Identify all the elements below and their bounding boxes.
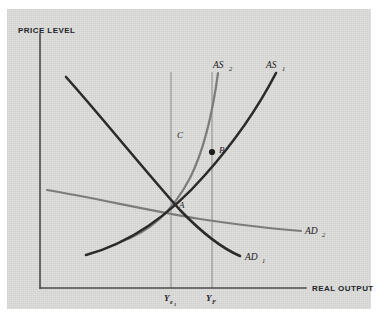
- chart-canvas: AS 2 AS 1 AD 2 AD 1 C B A PRICE LEVEL RE…: [0, 0, 386, 325]
- tick-label-ye1: Y e 1: [164, 293, 176, 307]
- curve-label-as2-base: AS: [212, 60, 224, 70]
- y-axis-label: PRICE LEVEL: [18, 26, 75, 35]
- tick-ye1-subsub: 1: [174, 302, 176, 307]
- curve-label-ad2-sub: 2: [322, 231, 326, 238]
- tick-label-yf: Y F: [206, 293, 216, 305]
- curve-label-as1-sub: 1: [282, 65, 285, 72]
- curve-label-ad2-base: AD: [304, 226, 318, 236]
- curve-label-ad1: AD 1: [244, 252, 265, 264]
- curve-label-as1: AS 1: [265, 60, 285, 72]
- x-axis-label: REAL OUTPUT: [312, 284, 374, 293]
- curve-label-as1-base: AS: [265, 60, 277, 70]
- tick-yf-sub: F: [212, 299, 216, 305]
- curve-as1: [86, 73, 276, 255]
- point-label-b: B: [219, 145, 225, 155]
- curve-label-ad1-sub: 1: [262, 257, 265, 264]
- curve-label-ad1-base: AD: [244, 252, 258, 262]
- figure-root: AS 2 AS 1 AD 2 AD 1 C B A PRICE LEVEL RE…: [0, 0, 386, 325]
- point-label-c: C: [177, 130, 184, 140]
- point-label-a: A: [178, 200, 185, 210]
- point-marker-b: [209, 149, 215, 155]
- curve-label-ad2: AD 2: [304, 226, 326, 238]
- curve-label-as2: AS 2: [212, 60, 233, 72]
- tick-ye1-sub: e: [170, 299, 173, 305]
- curve-label-as2-sub: 2: [229, 65, 233, 72]
- curve-ad2: [47, 190, 301, 231]
